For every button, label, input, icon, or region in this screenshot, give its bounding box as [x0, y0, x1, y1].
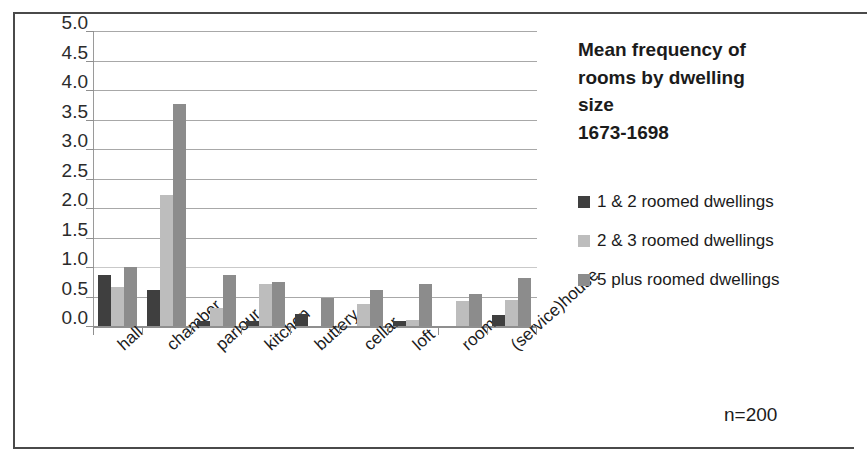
bar-group — [438, 31, 487, 326]
bar — [147, 290, 160, 326]
y-axis-tick-label: 1.0 — [36, 249, 88, 268]
y-axis-tick-label: 2.0 — [36, 190, 88, 209]
legend-item: 2 & 3 roomed dwellings — [578, 231, 848, 251]
legend-item-label: 5 plus roomed dwellings — [597, 270, 779, 290]
bar — [246, 321, 259, 326]
bar — [124, 267, 137, 326]
bar — [210, 308, 223, 326]
bar-group — [388, 31, 437, 326]
y-axis-tick-label: 4.5 — [36, 43, 88, 62]
bar — [406, 320, 419, 326]
y-axis-tick-label: 3.5 — [36, 102, 88, 121]
bar — [505, 300, 518, 326]
y-axis-tick-label: 4.0 — [36, 72, 88, 91]
y-axis-tick-label: 0.0 — [36, 308, 88, 327]
x-axis-tick-mark — [536, 326, 537, 335]
legend-swatch-icon — [578, 235, 590, 247]
bar-group — [241, 31, 290, 326]
bar — [98, 275, 111, 326]
y-axis-tick-label: 3.0 — [36, 131, 88, 150]
plot-region: 5.04.54.03.53.02.52.01.51.00.50.0 hallch… — [0, 0, 560, 462]
legend-item-label: 2 & 3 roomed dwellings — [597, 231, 774, 251]
bar — [259, 284, 272, 326]
chart-title-line-4: 1673-1698 — [578, 119, 828, 147]
x-axis-tick-mark — [93, 326, 94, 335]
x-axis-tick-mark — [487, 326, 488, 335]
legend-item-label: 1 & 2 roomed dwellings — [597, 192, 774, 212]
bar — [419, 284, 432, 326]
bar — [111, 287, 124, 326]
y-axis-tick-label: 5.0 — [36, 13, 88, 32]
legend-item: 5 plus roomed dwellings — [578, 270, 848, 290]
x-axis-tick-mark — [339, 326, 340, 335]
chart-page: 5.04.54.03.53.02.52.01.51.00.50.0 hallch… — [0, 0, 867, 462]
bar — [197, 321, 210, 326]
bar — [173, 104, 186, 326]
chart-title-line-1: Mean frequency of — [578, 36, 828, 64]
bar — [469, 294, 482, 326]
bar-group — [93, 31, 142, 326]
chart-title: Mean frequency of rooms by dwelling size… — [578, 36, 828, 146]
bar — [272, 282, 285, 326]
x-axis-line — [93, 326, 537, 328]
y-axis-tick-label: 0.5 — [36, 279, 88, 298]
bar — [393, 321, 406, 326]
bar-group — [290, 31, 339, 326]
bar — [160, 195, 173, 326]
bar — [321, 298, 334, 326]
bar — [456, 301, 469, 326]
x-axis-tick-mark — [142, 326, 143, 335]
legend-item: 1 & 2 roomed dwellings — [578, 192, 848, 212]
bar-group — [142, 31, 191, 326]
bar — [518, 278, 531, 326]
chart-legend: 1 & 2 roomed dwellings2 & 3 roomed dwell… — [578, 192, 848, 309]
sample-size-note: n=200 — [724, 404, 777, 426]
bar — [370, 290, 383, 326]
y-axis-tick-label: 1.5 — [36, 220, 88, 239]
y-axis-tick-labels: 5.04.54.03.53.02.52.01.51.00.50.0 — [36, 22, 88, 334]
x-axis-tick-label: loft — [409, 325, 439, 355]
bar-group — [487, 31, 536, 326]
bar — [295, 314, 308, 326]
x-axis-tick-mark — [290, 326, 291, 335]
bar — [492, 315, 505, 326]
legend-swatch-icon — [578, 274, 590, 286]
y-axis-tick-label: 2.5 — [36, 161, 88, 180]
chart-title-line-3: size — [578, 91, 828, 119]
chart-title-line-2: rooms by dwelling — [578, 64, 828, 92]
x-axis-tick-mark — [388, 326, 389, 335]
legend-swatch-icon — [578, 196, 590, 208]
bar — [357, 304, 370, 326]
bar-group — [339, 31, 388, 326]
bar — [223, 275, 236, 326]
bar-group — [191, 31, 240, 326]
x-axis-tick-mark — [438, 326, 439, 335]
x-axis-tick-mark — [191, 326, 192, 335]
x-axis-tick-mark — [241, 326, 242, 335]
